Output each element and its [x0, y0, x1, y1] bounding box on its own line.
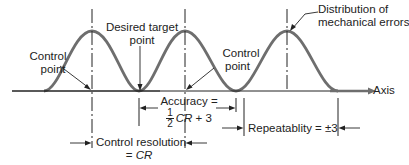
one-half-fraction: 1 2 [166, 108, 174, 129]
control-point-right-label: Control point [219, 47, 263, 73]
control-point-left-label: Control point [22, 50, 74, 76]
desired-target-label: Desired target point [104, 21, 180, 47]
distribution-label: Distribution of mechanical errors [318, 3, 409, 29]
distribution-curve [44, 31, 338, 91]
control-resolution-label: Control resolution = CR [96, 136, 182, 162]
accuracy-label: Accuracy = 1 2 CR + 3 [160, 95, 218, 129]
repeatability-label: Repeatablity = ±3 [248, 122, 338, 135]
axis-label: Axis [373, 84, 395, 97]
